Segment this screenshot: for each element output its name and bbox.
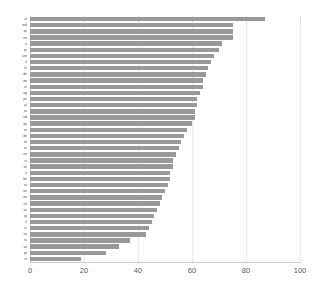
bar[interactable]	[30, 29, 233, 33]
bar-row[interactable]	[30, 115, 300, 119]
y-axis-tick-label: en	[23, 152, 27, 156]
bar[interactable]	[30, 201, 160, 205]
bar[interactable]	[30, 66, 208, 70]
y-axis-tick-label: ro	[24, 183, 27, 187]
bar[interactable]	[30, 54, 214, 58]
bar[interactable]	[30, 60, 211, 64]
x-axis-tick-label: 60	[188, 266, 196, 276]
bar-row[interactable]	[30, 226, 300, 230]
y-axis-tick-label: de	[23, 72, 27, 76]
bar[interactable]	[30, 85, 203, 89]
y-axis-tick-label: pr	[24, 48, 27, 52]
gridline-100	[300, 16, 301, 262]
plot-area	[30, 16, 300, 262]
y-axis-tick-label: is	[25, 42, 27, 46]
bar-row[interactable]	[30, 158, 300, 162]
bar[interactable]	[30, 23, 233, 27]
bar-row[interactable]	[30, 97, 300, 101]
bar-row[interactable]	[30, 109, 300, 113]
bar-row[interactable]	[30, 232, 300, 236]
bar-row[interactable]	[30, 177, 300, 181]
bar-row[interactable]	[30, 128, 300, 132]
y-axis-tick-label: se	[23, 29, 27, 33]
bar[interactable]	[30, 146, 179, 150]
bar[interactable]	[30, 164, 173, 168]
bar-row[interactable]	[30, 91, 300, 95]
bar-row[interactable]	[30, 121, 300, 125]
bar[interactable]	[30, 152, 176, 156]
y-axis-tick-label: ac	[23, 208, 27, 212]
bar-row[interactable]	[30, 208, 300, 212]
bar-row[interactable]	[30, 152, 300, 156]
bar-row[interactable]	[30, 140, 300, 144]
bar[interactable]	[30, 232, 146, 236]
bar-row[interactable]	[30, 72, 300, 76]
bar[interactable]	[30, 115, 195, 119]
bar-row[interactable]	[30, 48, 300, 52]
bar[interactable]	[30, 226, 149, 230]
bar[interactable]	[30, 257, 81, 261]
bar[interactable]	[30, 121, 192, 125]
bar-row[interactable]	[30, 244, 300, 248]
bar-row[interactable]	[30, 41, 300, 45]
bar-row[interactable]	[30, 183, 300, 187]
bar[interactable]	[30, 158, 173, 162]
y-axis-tick-label: cl	[25, 220, 27, 224]
bar-row[interactable]	[30, 54, 300, 58]
bar-row[interactable]	[30, 257, 300, 261]
bar[interactable]	[30, 134, 184, 138]
bar-row[interactable]	[30, 134, 300, 138]
bar[interactable]	[30, 48, 219, 52]
bar-row[interactable]	[30, 29, 300, 33]
bar[interactable]	[30, 171, 170, 175]
bar-row[interactable]	[30, 220, 300, 224]
bar[interactable]	[30, 109, 195, 113]
bar-row[interactable]	[30, 103, 300, 107]
bar-row[interactable]	[30, 66, 300, 70]
bar-row[interactable]	[30, 189, 300, 193]
bar-row[interactable]	[30, 35, 300, 39]
bar-row[interactable]	[30, 195, 300, 199]
y-axis-tick-label: sv	[24, 146, 27, 150]
bar[interactable]	[30, 177, 170, 181]
bar[interactable]	[30, 140, 181, 144]
bar-row[interactable]	[30, 17, 300, 21]
bar[interactable]	[30, 17, 265, 21]
bar-row[interactable]	[30, 171, 300, 175]
bar[interactable]	[30, 72, 206, 76]
bar-row[interactable]	[30, 164, 300, 168]
y-axis-tick-label: gl	[24, 214, 27, 218]
bar-row[interactable]	[30, 23, 300, 27]
bar[interactable]	[30, 220, 152, 224]
bar[interactable]	[30, 189, 165, 193]
bar[interactable]	[30, 244, 119, 248]
bar-row[interactable]	[30, 78, 300, 82]
bar[interactable]	[30, 128, 187, 132]
bar[interactable]	[30, 208, 157, 212]
bar-row[interactable]	[30, 238, 300, 242]
bar-row[interactable]	[30, 146, 300, 150]
bar-row[interactable]	[30, 214, 300, 218]
bar[interactable]	[30, 41, 222, 45]
bar[interactable]	[30, 195, 162, 199]
y-axis-tick-label: ee	[23, 195, 27, 199]
bar[interactable]	[30, 238, 130, 242]
y-axis-tick-label: pl	[24, 103, 27, 107]
y-axis-tick-label: ra	[24, 238, 27, 242]
y-axis-tick-label: it	[25, 60, 27, 64]
bar[interactable]	[30, 78, 203, 82]
bar[interactable]	[30, 97, 197, 101]
y-axis-tick-label: ie	[24, 85, 27, 89]
bar[interactable]	[30, 214, 154, 218]
bar[interactable]	[30, 251, 106, 255]
bar-row[interactable]	[30, 201, 300, 205]
x-axis-labels: 020406080100	[0, 266, 330, 280]
bar-row[interactable]	[30, 85, 300, 89]
bar[interactable]	[30, 183, 168, 187]
bar-row[interactable]	[30, 251, 300, 255]
y-axis-tick-label: la	[24, 66, 27, 70]
bar[interactable]	[30, 35, 233, 39]
bar-row[interactable]	[30, 60, 300, 64]
bar[interactable]	[30, 91, 200, 95]
bar[interactable]	[30, 103, 197, 107]
